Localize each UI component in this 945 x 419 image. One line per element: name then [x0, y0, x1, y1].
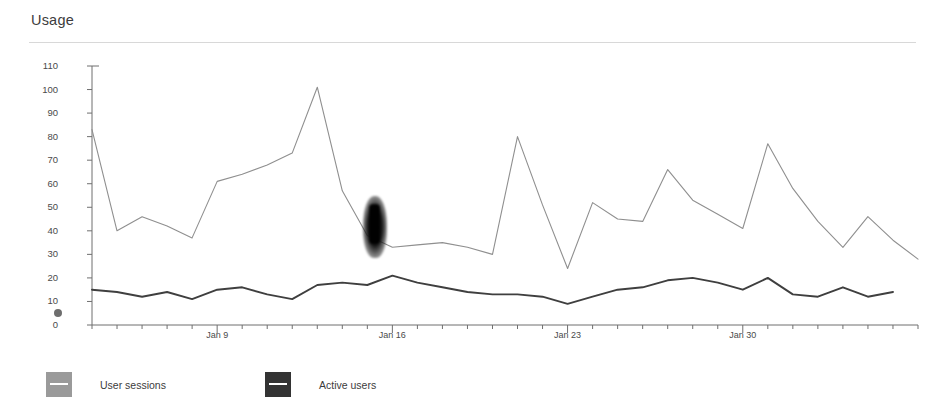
cursor-overlay-artifact — [363, 196, 387, 258]
y-axis-tick-label: 40 — [28, 225, 58, 236]
x-axis-tick-label: Jan 30 — [713, 330, 773, 340]
y-axis-tick-label: 90 — [28, 107, 58, 118]
legend-label-user-sessions: User sessions — [100, 379, 166, 391]
legend-item-active-users[interactable]: Active users — [265, 372, 376, 397]
chart-series-lines — [92, 87, 918, 304]
y-axis-tick-label: 70 — [28, 154, 58, 165]
chart-svg — [0, 0, 945, 419]
series-line-user-sessions — [92, 87, 918, 268]
chart-legend: User sessions Active users — [0, 368, 945, 402]
x-axis-tick-label: Jan 23 — [538, 330, 598, 340]
x-axis-tick-label: Jan 9 — [187, 330, 247, 340]
y-axis-tick-label: 110 — [28, 60, 58, 71]
series-line-active-users — [92, 276, 893, 304]
y-axis-tick-label: 0 — [28, 319, 58, 330]
y-axis-tick-label: 80 — [28, 131, 58, 142]
usage-chart-card: Usage 0102030405060708090100110 Jan 9Jan… — [0, 0, 945, 419]
x-axis-tick-label: Jan 16 — [362, 330, 422, 340]
legend-swatch-active-users — [265, 372, 291, 397]
y-axis-tick-label: 10 — [28, 295, 58, 306]
legend-label-active-users: Active users — [319, 379, 376, 391]
y-axis-tick-label: 50 — [28, 201, 58, 212]
legend-swatch-user-sessions — [46, 372, 72, 397]
y-axis-tick-label: 60 — [28, 178, 58, 189]
y-axis-tick-label: 20 — [28, 272, 58, 283]
y-axis-tick-label: 100 — [28, 84, 58, 95]
mouse-cursor-dot — [54, 309, 62, 317]
y-axis-tick-label: 30 — [28, 248, 58, 259]
chart-plot-area[interactable] — [0, 0, 945, 419]
y-tick-marks — [87, 66, 92, 325]
legend-item-user-sessions[interactable]: User sessions — [46, 372, 166, 397]
